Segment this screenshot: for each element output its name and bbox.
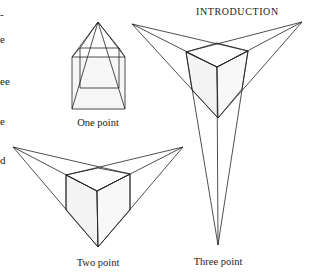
perspective-diagrams: [0, 0, 323, 280]
figure-caption-three-point: Three point: [194, 256, 243, 267]
one-point-figure: [72, 22, 125, 109]
two-point-figure: [13, 147, 183, 247]
figure-caption-two-point: Two point: [77, 257, 120, 268]
figure-caption-one-point: One point: [77, 117, 119, 128]
three-point-figure: [132, 22, 302, 245]
